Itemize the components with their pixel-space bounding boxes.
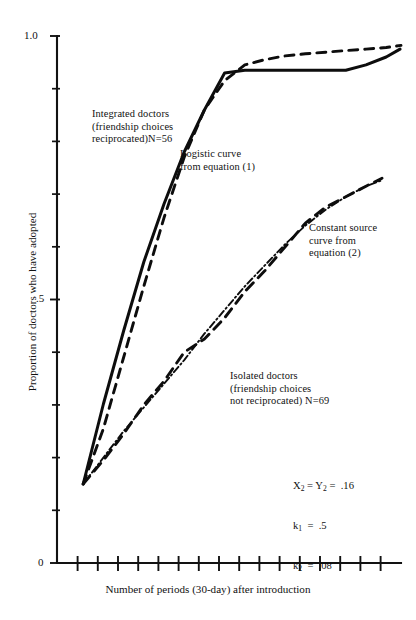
x-axis-label: Number of periods (30-day) after introdu…	[0, 583, 416, 595]
annotation-isolated-doctors: Isolated doctors (friendship choices not…	[230, 370, 329, 408]
y-tick-label-zero: 0	[38, 556, 44, 568]
param-x-symbol: X	[293, 480, 301, 491]
param-k2-value: = .08	[302, 560, 332, 571]
parameter-line-x2y2: X2 = Y2 = .16	[293, 480, 354, 495]
parameter-annotations: X2 = Y2 = .16 k1 = .5 k2 = .08	[293, 455, 354, 599]
y-axis-ticks	[50, 36, 60, 563]
param-x2y2-value: = .16	[327, 480, 354, 491]
param-k1-value: = .5	[302, 520, 327, 531]
parameter-line-k2: k2 = .08	[293, 560, 354, 575]
annotation-logistic-curve: Logistic curve from equation (1)	[180, 148, 255, 173]
parameter-line-k1: k1 = .5	[293, 520, 354, 535]
param-equals-y: = Y	[304, 480, 323, 491]
annotation-constant-source-curve: Constant source curve from equation (2)	[309, 222, 377, 260]
y-axis-label: Proportion of doctors who have adopted	[26, 187, 38, 417]
annotation-integrated-doctors: Integrated doctors (friendship choices r…	[92, 108, 173, 146]
y-tick-label-1: 1.0	[24, 29, 38, 41]
figure-container: 1.0 .5 0 Integrated doctors (friendship …	[0, 0, 416, 620]
